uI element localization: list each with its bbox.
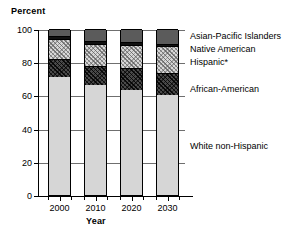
y-axis-tick-label: 0 <box>27 191 32 201</box>
bar-segment <box>157 29 178 44</box>
bar-segment <box>121 68 142 90</box>
y-axis-tick <box>34 196 38 197</box>
bar-segment <box>49 36 70 38</box>
x-axis-tick-label-2030: 2030 <box>157 203 177 213</box>
x-axis-tick <box>96 197 97 201</box>
x-axis-minor-tick <box>48 197 49 200</box>
legend-label-asian-pacific-islanders: Asian-Pacific Islanders <box>190 31 281 42</box>
bar-segment <box>157 46 178 73</box>
plot-area: 020406080100 2000201020202030 <box>38 30 185 197</box>
bar-segment <box>85 29 106 41</box>
y-axis-tick <box>34 30 38 31</box>
y-axis-tick <box>34 130 38 131</box>
bar-segment <box>121 29 142 42</box>
bar-segment <box>85 66 106 86</box>
bar-2030[interactable] <box>156 30 179 196</box>
bar-segment <box>49 29 70 36</box>
x-axis-tick-label-2000: 2000 <box>49 203 69 213</box>
x-axis-minor-tick <box>107 197 108 200</box>
bar-segment <box>157 73 178 95</box>
x-axis-tick <box>132 197 133 201</box>
bar-segment <box>121 90 142 195</box>
chart-figure: Percent 020406080100 2000201020202030 Ye… <box>0 0 283 234</box>
bar-2010[interactable] <box>84 30 107 196</box>
y-axis-tick <box>34 63 38 64</box>
bar-segment <box>85 44 106 66</box>
y-axis-title: Percent <box>11 6 45 16</box>
y-axis-tick <box>34 163 38 164</box>
x-axis-minor-tick <box>71 197 72 200</box>
x-axis-minor-tick <box>143 197 144 200</box>
x-axis-tick-label-2010: 2010 <box>85 203 105 213</box>
y-axis-tick-label: 100 <box>17 25 32 35</box>
x-axis-tick-label-2020: 2020 <box>121 203 141 213</box>
legend-label-white-non-hispanic: White non-Hispanic <box>190 141 268 152</box>
bar-segment <box>157 95 178 195</box>
y-axis-tick-label: 40 <box>22 125 32 135</box>
legend-label-african-american: African-American <box>190 84 259 95</box>
y-axis-tick <box>34 96 38 97</box>
y-axis-tick-label: 20 <box>22 158 32 168</box>
y-axis-tick-label: 80 <box>22 58 32 68</box>
x-axis-minor-tick <box>120 197 121 200</box>
bar-segment <box>49 77 70 195</box>
legend-label-native-american: Native American <box>190 44 256 55</box>
bar-segment <box>157 44 178 46</box>
bar-segment <box>85 41 106 43</box>
x-axis-minor-tick <box>84 197 85 200</box>
x-axis-tick <box>168 197 169 201</box>
x-axis-title: Year <box>86 216 106 226</box>
bar-segment <box>121 42 142 44</box>
bar-segment <box>49 39 70 59</box>
bar-segment <box>49 59 70 77</box>
y-axis-tick-label: 60 <box>22 91 32 101</box>
x-axis-minor-tick <box>156 197 157 200</box>
x-axis-tick <box>60 197 61 201</box>
legend-label-hispanic: Hispanic* <box>190 57 228 68</box>
x-axis-line <box>38 196 193 197</box>
y-axis-line <box>38 30 39 197</box>
bar-segment <box>85 85 106 195</box>
bar-segment <box>121 45 142 68</box>
bar-2000[interactable] <box>48 30 71 196</box>
x-axis-minor-tick <box>179 197 180 200</box>
bar-2020[interactable] <box>120 30 143 196</box>
